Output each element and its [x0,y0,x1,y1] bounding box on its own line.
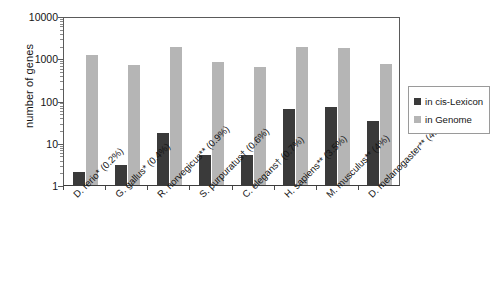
x-axis-tick-mark [232,186,233,190]
y-axis-tick-label: 1000 [0,53,58,65]
y-axis-tick-label: 100 [0,96,58,108]
x-axis-tick-mark [63,186,64,190]
x-axis-tick-mark [189,186,190,190]
legend-item-label: in cis-Lexicon [425,96,483,107]
y-axis-tick-label: 10 [0,138,58,150]
legend-item: in Genome [414,114,483,125]
x-axis-tick-mark [274,186,275,190]
legend-item-label: in Genome [425,114,472,125]
y-axis-tick-label: 1 [0,180,58,192]
legend-item: in cis-Lexicon [414,96,483,107]
bar-genome [296,47,308,185]
x-axis-tick-mark [105,186,106,190]
x-axis-tick-mark [147,186,148,190]
x-axis-tick-mark [358,186,359,190]
bar-genome [170,47,182,185]
legend-swatch-icon [414,116,421,123]
x-axis-tick-mark [316,186,317,190]
y-axis-tick-label: 10000 [0,11,58,23]
chart-legend: in cis-Lexiconin Genome [408,86,490,134]
legend-swatch-icon [414,98,421,105]
bar-chart: number of genes 110100100010000 D. rerio… [0,0,492,296]
bar-genome [338,48,350,185]
y-axis-title: number of genes [23,21,35,151]
